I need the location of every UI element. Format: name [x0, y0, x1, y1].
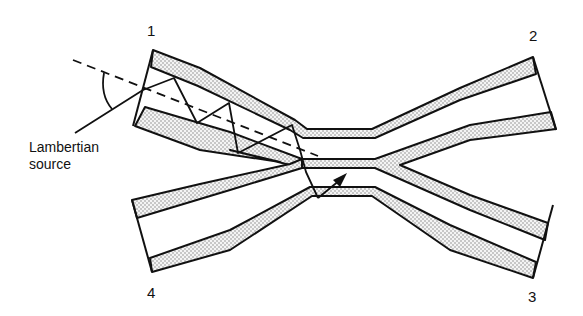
port-label-3: 3: [528, 288, 536, 305]
end-face-3: [533, 205, 553, 278]
lambertian-source-label: Lambertian source: [29, 139, 99, 173]
port-label-1: 1: [147, 22, 155, 39]
annotation-line-1: Lambertian: [29, 139, 99, 156]
acceptance-angle-arc: [103, 73, 112, 109]
port-label-4: 4: [147, 284, 155, 301]
cladding-center-a: [135, 107, 556, 240]
annotation-line-2: source: [29, 156, 99, 173]
port-label-2: 2: [529, 27, 537, 44]
coupler-diagram: 1 2 3 4 Lambertian source: [0, 0, 583, 316]
